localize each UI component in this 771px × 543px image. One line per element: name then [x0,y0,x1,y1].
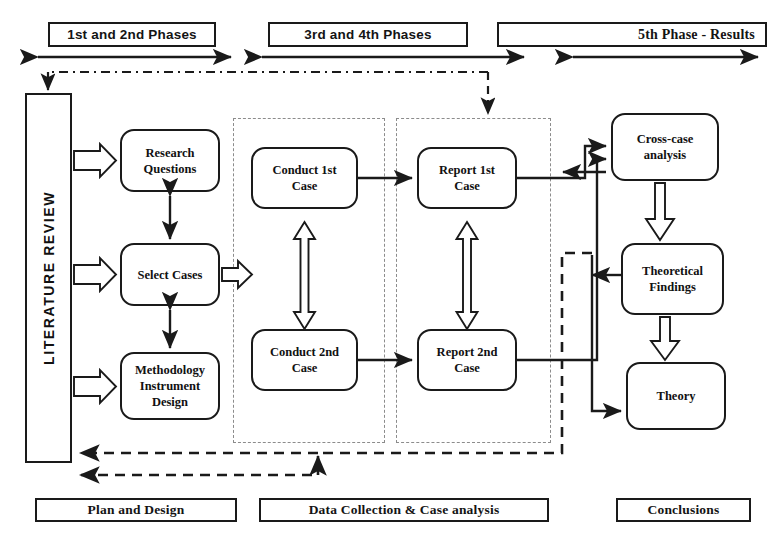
stage-footer-label: Data Collection & Case analysis [309,502,500,518]
node-label: ResearchQuestions [144,145,197,177]
stage-footer-label: Conclusions [648,502,720,518]
block-arrow-cross-case-to-theoretical [646,183,674,240]
node-cross-case-analysis: Cross-caseanalysis [611,113,719,181]
phase-header-5th-results: 5th Phase - Results [497,22,767,47]
phase-header-label: 5th Phase - Results [638,27,755,43]
diagram-canvas: 1st and 2nd Phases 3rd and 4th Phases 5t… [0,0,771,543]
node-conduct-2nd-case: Conduct 2ndCase [251,329,358,391]
node-label: Report 2ndCase [437,344,498,376]
node-label: Report 1stCase [439,162,495,194]
node-label: Conduct 1stCase [272,162,336,194]
block-arrow-lit-to-methodology [74,370,116,403]
stage-footer-plan-and-design: Plan and Design [35,498,237,522]
node-conduct-1st-case: Conduct 1stCase [251,147,358,209]
rail-theoretical-to-theory-loop [592,255,621,411]
node-label: Conduct 2ndCase [270,344,339,376]
phase-header-label: 3rd and 4th Phases [304,27,431,42]
node-select-cases: Select Cases [120,243,220,306]
block-arrow-theoretical-to-theory [651,317,679,360]
phase-header-1st-and-2nd: 1st and 2nd Phases [48,22,216,47]
block-arrow-lit-to-select-cases [74,258,116,291]
node-report-1st-case: Report 1stCase [417,147,517,209]
phase-header-3rd-and-4th: 3rd and 4th Phases [268,22,468,47]
literature-review-bar: LITERATURE REVIEW [25,93,72,463]
node-report-2nd-case: Report 2ndCase [417,329,517,391]
node-theoretical-findings: TheoreticalFindings [621,243,724,315]
phase-header-label: 1st and 2nd Phases [67,27,197,42]
node-label: Select Cases [138,267,203,283]
stage-footer-data-collection: Data Collection & Case analysis [259,498,549,522]
block-arrow-lit-to-research-questions [74,144,116,177]
node-theory: Theory [626,362,726,430]
node-label: TheoreticalFindings [642,263,703,295]
node-label: Cross-caseanalysis [637,131,694,163]
node-methodology-instrument-design: MethodologyInstrumentDesign [120,352,220,420]
node-label: MethodologyInstrumentDesign [135,362,205,410]
literature-review-label: LITERATURE REVIEW [41,191,57,365]
stage-footer-conclusions: Conclusions [616,498,751,522]
node-research-questions: ResearchQuestions [120,129,220,192]
node-label: Theory [657,388,696,404]
stage-footer-label: Plan and Design [88,502,185,518]
